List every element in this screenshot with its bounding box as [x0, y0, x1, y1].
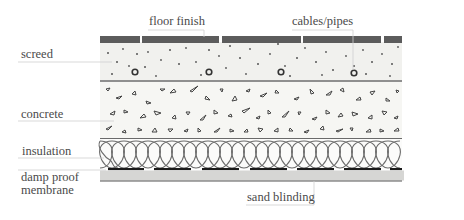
concrete-layer	[100, 82, 402, 139]
label-concrete: concrete	[21, 107, 64, 121]
label-cables-pipes: cables/pipes	[292, 14, 353, 28]
tile	[142, 36, 219, 43]
leader-floor-finish	[148, 30, 204, 37]
insulation-layer	[99, 139, 402, 169]
tile	[303, 36, 381, 43]
label-screed: screed	[21, 47, 54, 61]
label-insulation: insulation	[22, 144, 72, 158]
label-damp-proof-line2: membrane	[21, 183, 74, 197]
tile	[222, 36, 301, 43]
label-damp-proof-line1: damp proof	[21, 170, 80, 184]
tile	[100, 36, 140, 43]
screed-layer	[100, 42, 402, 81]
floor-section-diagram: floor finish cables/pipes screed concret…	[0, 0, 464, 220]
floor-finish-layer	[100, 36, 402, 43]
tile	[384, 36, 402, 43]
label-sand-blinding: sand blinding	[247, 190, 315, 204]
label-floor-finish: floor finish	[149, 14, 206, 28]
sand-blinding-layer	[100, 171, 404, 182]
